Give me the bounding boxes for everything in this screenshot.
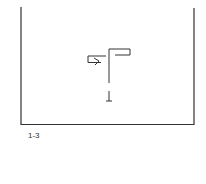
panel-label: 1-3 <box>28 131 40 140</box>
diagram-canvas <box>0 0 206 184</box>
arrow-right-icon <box>94 58 99 65</box>
frame <box>21 7 194 125</box>
flag-stem-symbol <box>88 49 130 83</box>
ground-tick-symbol <box>106 91 112 101</box>
